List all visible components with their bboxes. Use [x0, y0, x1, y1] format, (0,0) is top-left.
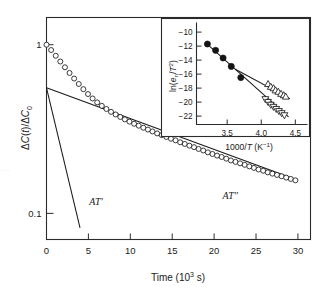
- main-data-point: [90, 96, 95, 101]
- inset-data-point-filled: [228, 63, 234, 69]
- main-data-point: [293, 178, 298, 183]
- main-fit-label: AT″: [222, 190, 239, 201]
- main-x-tick-label: 30: [293, 245, 304, 256]
- main-fit-line: [47, 88, 81, 228]
- main-data-point: [85, 92, 90, 97]
- inset-x-tick-label: 4.0: [256, 129, 268, 138]
- inset-y-tick-label: −12: [179, 42, 193, 51]
- inset-data-point-filled: [238, 75, 244, 81]
- main-x-tick-label: 20: [209, 245, 220, 256]
- main-data-point: [104, 106, 109, 111]
- main-y-tick-label: 1: [36, 39, 41, 50]
- inset-data-point-filled: [220, 55, 226, 61]
- inset-x-axis-title: 1000/T (K−1): [225, 141, 273, 152]
- main-x-tick-label: 15: [167, 245, 178, 256]
- main-fit-label: AT': [88, 196, 103, 207]
- inset-x-tick-label: 3.5: [221, 129, 233, 138]
- main-data-point: [81, 87, 86, 92]
- figure-canvas: 10.1 051015202530 AT'AT″ Time (103 s) ΔC…: [0, 0, 328, 293]
- main-data-point: [62, 65, 67, 70]
- main-data-point: [99, 103, 104, 108]
- inset-y-tick-label: −14: [179, 56, 193, 65]
- main-data-point: [113, 112, 118, 117]
- main-y-tick-label: 0.1: [28, 208, 41, 219]
- main-data-point: [109, 109, 114, 114]
- inset-data-point-filled: [212, 47, 218, 53]
- inset-y-tick-label: −16: [179, 70, 193, 79]
- main-data-point: [95, 100, 100, 105]
- main-y-axis: 10.1: [28, 39, 53, 219]
- main-annotations: AT'AT″: [88, 190, 239, 207]
- inset-y-tick-label: −10: [179, 28, 193, 37]
- cropped-caption-fragment: · · · ·: [1, 168, 12, 240]
- main-x-tick-label: 0: [44, 245, 49, 256]
- main-data-point: [58, 59, 63, 64]
- main-x-tick-label: 5: [86, 245, 91, 256]
- inset-x-tick-label: 4.5: [290, 129, 302, 138]
- main-data-point: [53, 53, 58, 58]
- inset-y-tick-label: −22: [179, 112, 193, 121]
- main-data-point: [72, 76, 77, 81]
- inset-y-tick-label: −20: [179, 98, 193, 107]
- main-data-point: [118, 114, 123, 119]
- main-data-point: [76, 81, 81, 86]
- main-x-tick-label: 25: [251, 245, 262, 256]
- main-x-axis-title: Time (103 s): [151, 271, 205, 283]
- figure-root: 10.1 051015202530 AT'AT″ Time (103 s) ΔC…: [0, 0, 328, 293]
- main-x-tick-label: 10: [125, 245, 136, 256]
- inset-data-point-filled: [204, 41, 210, 47]
- main-x-axis: 051015202530: [44, 234, 303, 256]
- inset-y-tick-label: −18: [179, 84, 193, 93]
- main-y-axis-title: ΔC(t)/ΔC0: [20, 106, 33, 150]
- main-data-point: [44, 42, 49, 47]
- main-data-point: [67, 70, 72, 75]
- main-data-point: [49, 48, 54, 53]
- svg-text:ΔC(t)/ΔC0: ΔC(t)/ΔC0: [20, 106, 33, 150]
